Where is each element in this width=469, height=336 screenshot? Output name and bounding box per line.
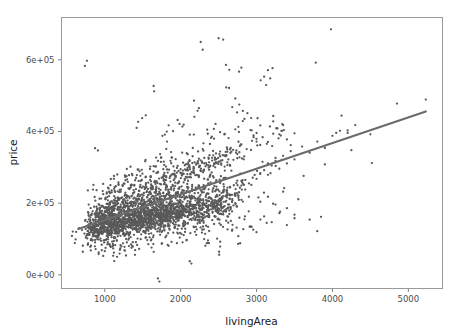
data-point [154,223,156,225]
data-point [184,178,186,180]
data-point [219,150,221,152]
data-point [240,184,242,186]
data-point [214,215,216,217]
data-point [280,134,282,136]
data-point [94,245,96,247]
data-point [176,203,178,205]
data-point [118,197,120,199]
data-point [194,174,196,176]
data-point [173,187,175,189]
data-point [162,219,164,221]
data-point [216,194,218,196]
data-point [231,224,233,226]
data-point [122,242,124,244]
data-point [217,37,219,39]
data-point [231,106,233,108]
data-point [275,165,277,167]
data-point [243,118,245,120]
data-point [218,254,220,256]
data-point [128,217,130,219]
data-point [236,192,238,194]
data-point [93,206,95,208]
data-point [224,169,226,171]
data-point [274,203,276,205]
data-point [189,210,191,212]
data-point [195,216,197,218]
data-point [259,218,261,220]
data-point [162,226,164,228]
data-point [189,232,191,234]
data-point [272,115,274,117]
data-point [192,213,194,215]
data-point [117,206,119,208]
data-point [159,206,161,208]
data-point [167,222,169,224]
data-point [128,195,130,197]
data-point [157,160,159,162]
data-point [239,187,241,189]
data-point [162,217,164,219]
data-point [190,262,192,264]
data-point [101,227,103,229]
data-point [190,173,192,175]
data-point [166,206,168,208]
data-point [172,232,174,234]
data-point [103,241,105,243]
data-point [107,187,109,189]
data-point [163,164,165,166]
data-point [224,155,226,157]
data-point [124,191,126,193]
data-point [172,203,174,205]
data-point [211,159,213,161]
data-point [189,260,191,262]
data-point [209,205,211,207]
data-point [157,277,159,279]
data-point [126,168,128,170]
data-point [176,242,178,244]
data-point [147,216,149,218]
data-point [165,201,167,203]
data-point [197,150,199,152]
data-point [190,198,192,200]
data-point [235,182,237,184]
data-point [309,219,311,221]
data-point [340,115,342,117]
data-point [193,161,195,163]
data-point [219,131,221,133]
data-point [263,76,265,78]
data-point [246,148,248,150]
data-point [228,87,230,89]
data-point [290,150,292,152]
data-point [324,163,326,165]
data-point [220,192,222,194]
data-point [92,234,94,236]
data-point [238,199,240,201]
data-point [237,126,239,128]
data-point [101,210,103,212]
data-point [163,209,165,211]
data-point [167,189,169,191]
data-point [158,191,160,193]
data-point [137,121,139,123]
data-point [169,217,171,219]
data-point [103,222,105,224]
data-point [346,132,348,134]
data-point [208,188,210,190]
data-point [90,249,92,251]
data-point [143,202,145,204]
data-point [231,201,233,203]
data-point [251,129,253,131]
data-point [230,220,232,222]
data-point [107,199,109,201]
data-point [149,209,151,211]
data-point [107,221,109,223]
data-point [146,196,148,198]
data-point [242,110,244,112]
data-point [110,200,112,202]
data-point [152,187,154,189]
data-point [238,103,240,105]
data-point [193,133,195,135]
data-point [120,226,122,228]
data-point [283,187,285,189]
data-point [226,148,228,150]
